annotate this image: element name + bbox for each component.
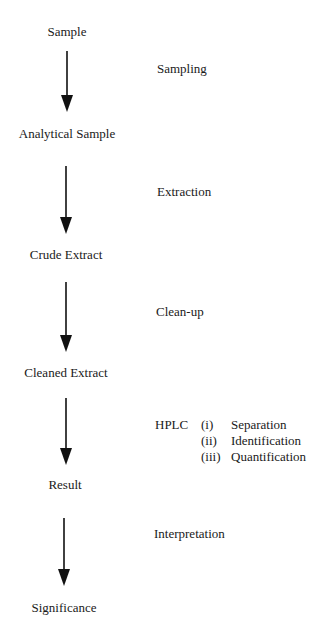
- substep-number: (ii): [201, 433, 231, 449]
- substep-identification: Identification: [231, 433, 301, 449]
- substep-number: (i): [201, 417, 231, 433]
- step-sampling: Sampling: [157, 61, 207, 76]
- down-arrow-icon: [57, 518, 71, 587]
- step-clean-up: Clean-up: [156, 304, 204, 319]
- down-arrow-icon: [59, 398, 73, 466]
- node-sample: Sample: [48, 24, 87, 39]
- node-result: Result: [48, 477, 81, 492]
- hplc-row: (iii) Quantification: [155, 449, 306, 465]
- node-crude-extract: Crude Extract: [30, 247, 103, 262]
- node-cleaned-extract: Cleaned Extract: [24, 365, 107, 380]
- node-significance: Significance: [32, 600, 97, 615]
- hplc-row: (ii) Identification: [155, 433, 306, 449]
- node-analytical-sample: Analytical Sample: [19, 126, 115, 141]
- down-arrow-icon: [59, 282, 73, 353]
- step-extraction: Extraction: [157, 184, 211, 199]
- down-arrow-icon: [59, 166, 73, 235]
- step-hplc: HPLC (i) Separation (ii) Identification …: [155, 417, 306, 465]
- step-interpretation: Interpretation: [154, 526, 225, 541]
- down-arrow-icon: [60, 51, 74, 113]
- substep-number: (iii): [201, 449, 231, 465]
- substep-quantification: Quantification: [231, 449, 306, 465]
- hplc-label: HPLC: [155, 417, 201, 433]
- hplc-row: HPLC (i) Separation: [155, 417, 306, 433]
- substep-separation: Separation: [231, 417, 287, 433]
